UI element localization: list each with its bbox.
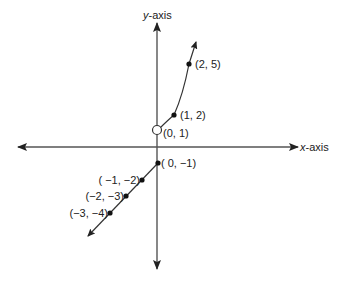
y-axis-label: y-axis bbox=[142, 9, 172, 21]
label-neg1-neg2: ( −1, −2) bbox=[98, 174, 140, 186]
graph-canvas: x-axis y-axis (0, 1) (1, 2) (2, 5) ( 0, … bbox=[0, 0, 344, 283]
label-neg2-neg3: (−2, −3) bbox=[85, 190, 124, 202]
label-2-5: (2, 5) bbox=[195, 58, 221, 70]
point-0-neg1 bbox=[155, 160, 160, 165]
point-neg1-neg2 bbox=[139, 177, 144, 182]
label-1-2: (1, 2) bbox=[180, 109, 206, 121]
open-point-0-1 bbox=[153, 126, 162, 135]
point-neg3-neg4 bbox=[107, 210, 112, 215]
point-neg2-neg3 bbox=[123, 193, 128, 198]
point-1-2 bbox=[171, 112, 176, 117]
point-2-5 bbox=[186, 61, 191, 66]
label-0-neg1: ( 0, −1) bbox=[161, 157, 196, 169]
x-axis-label: x-axis bbox=[299, 141, 329, 153]
label-neg3-neg4: (−3, −4) bbox=[69, 207, 108, 219]
label-0-1: (0, 1) bbox=[163, 127, 189, 139]
